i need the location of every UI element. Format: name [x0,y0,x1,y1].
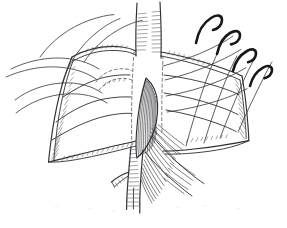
figure-root [0,0,287,228]
surgical-illustration [0,0,287,228]
